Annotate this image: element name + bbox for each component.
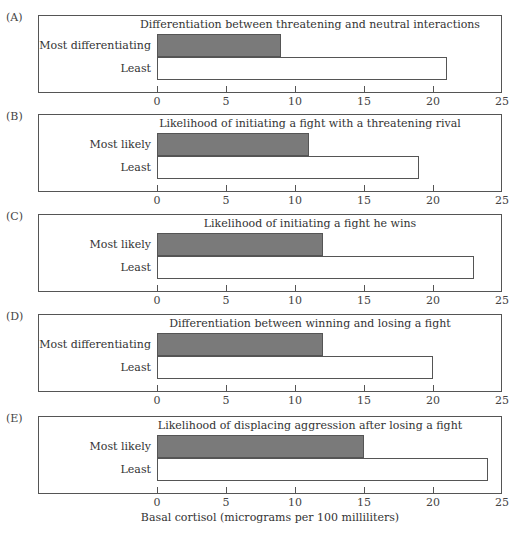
x-tick	[157, 285, 158, 291]
x-tick	[433, 487, 434, 493]
x-tick	[157, 385, 158, 391]
x-tick	[433, 285, 434, 291]
x-tick-label: 5	[223, 294, 230, 307]
chart-panel-a: (A)Differentiation between threatening a…	[0, 15, 524, 115]
panel-letter: (D)	[6, 310, 23, 323]
x-tick	[433, 385, 434, 391]
category-label: Least	[1, 261, 151, 274]
x-tick-label: 5	[223, 496, 230, 509]
x-tick-label: 10	[288, 294, 302, 307]
category-label: Most likely	[1, 440, 151, 453]
x-tick-label: 10	[288, 194, 302, 207]
x-tick-label: 15	[357, 294, 371, 307]
x-tick-label: 20	[426, 194, 440, 207]
panel-letter: (A)	[6, 11, 23, 24]
x-tick-label: 20	[426, 394, 440, 407]
x-tick	[157, 487, 158, 493]
chart-panel-c: (C)Likelihood of initiating a fight he w…	[0, 214, 524, 314]
x-tick-label: 15	[357, 496, 371, 509]
category-label: Most differentiating	[1, 39, 151, 52]
x-tick	[157, 86, 158, 92]
panel-title: Differentiation between winning and losi…	[169, 317, 450, 330]
x-tick-label: 10	[288, 394, 302, 407]
x-tick-label: 15	[357, 95, 371, 108]
x-tick-label: 0	[154, 394, 161, 407]
category-label: Least	[1, 463, 151, 476]
x-tick-label: 5	[223, 194, 230, 207]
x-tick-label: 15	[357, 394, 371, 407]
chart-panel-d: (D)Differentiation between winning and l…	[0, 314, 524, 414]
x-tick-label: 0	[154, 95, 161, 108]
bar-most	[157, 133, 309, 156]
x-tick	[364, 385, 365, 391]
x-tick	[226, 285, 227, 291]
x-tick-label: 25	[495, 294, 509, 307]
x-tick-label: 0	[154, 294, 161, 307]
category-label: Most likely	[1, 238, 151, 251]
x-tick-label: 5	[223, 394, 230, 407]
x-tick	[364, 487, 365, 493]
panel-letter: (C)	[6, 210, 23, 223]
category-label: Least	[1, 161, 151, 174]
x-tick	[226, 487, 227, 493]
x-tick	[226, 385, 227, 391]
x-tick	[226, 86, 227, 92]
bar-least	[157, 156, 419, 179]
chart-panel-b: (B)Likelihood of initiating a fight with…	[0, 114, 524, 214]
panel-title: Likelihood of initiating a fight he wins	[204, 217, 416, 230]
category-label: Least	[1, 361, 151, 374]
x-tick-label: 0	[154, 194, 161, 207]
bar-least	[157, 458, 488, 481]
x-tick	[364, 185, 365, 191]
panel-title: Likelihood of initiating a fight with a …	[159, 117, 461, 130]
category-label: Most likely	[1, 138, 151, 151]
x-tick	[295, 86, 296, 92]
x-tick	[295, 385, 296, 391]
x-tick-label: 5	[223, 95, 230, 108]
bar-most	[157, 233, 323, 256]
x-tick-label: 25	[495, 496, 509, 509]
x-tick	[364, 285, 365, 291]
bar-least	[157, 356, 433, 379]
x-tick	[295, 487, 296, 493]
x-tick-label: 20	[426, 496, 440, 509]
chart-panel-e: (E)Likelihood of displacing aggression a…	[0, 416, 524, 516]
x-tick-label: 10	[288, 496, 302, 509]
x-tick-label: 0	[154, 496, 161, 509]
x-tick-label: 15	[357, 194, 371, 207]
x-axis-title: Basal cortisol (micrograms per 100 milli…	[141, 511, 399, 524]
panel-title: Differentiation between threatening and …	[140, 18, 480, 31]
bar-least	[157, 57, 447, 80]
panel-letter: (E)	[6, 412, 23, 425]
bar-most	[157, 333, 323, 356]
bar-most	[157, 34, 281, 57]
category-label: Least	[1, 62, 151, 75]
x-tick-label: 25	[495, 194, 509, 207]
bar-most	[157, 435, 364, 458]
x-tick	[295, 185, 296, 191]
panel-letter: (B)	[6, 110, 23, 123]
x-tick-label: 20	[426, 294, 440, 307]
bar-least	[157, 256, 474, 279]
x-tick	[157, 185, 158, 191]
x-tick	[364, 86, 365, 92]
x-tick-label: 10	[288, 95, 302, 108]
x-tick-label: 20	[426, 95, 440, 108]
x-tick	[295, 285, 296, 291]
x-tick-label: 25	[495, 95, 509, 108]
category-label: Most differentiating	[1, 338, 151, 351]
x-tick	[433, 86, 434, 92]
x-tick	[433, 185, 434, 191]
x-tick-label: 25	[495, 394, 509, 407]
x-tick	[226, 185, 227, 191]
panel-title: Likelihood of displacing aggression afte…	[158, 419, 462, 432]
